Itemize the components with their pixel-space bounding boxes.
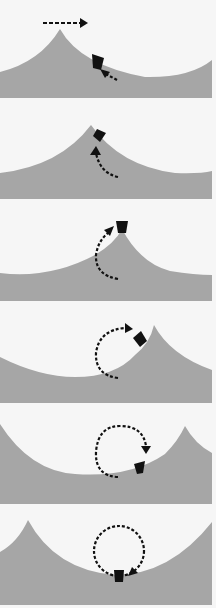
arrowhead-icon [141, 446, 151, 454]
wave-surface [0, 29, 212, 98]
arrowhead-icon [80, 18, 88, 28]
wave-surface [0, 229, 212, 301]
frame-2 [0, 101, 216, 202]
arrowhead-icon [104, 226, 114, 236]
wave-surface [0, 520, 212, 605]
frame-4 [0, 305, 216, 406]
wave-surface [0, 325, 212, 403]
dashed-arrow-circle [94, 526, 144, 576]
frame-3 [0, 203, 216, 304]
arrowhead-icon [125, 323, 133, 333]
frame-5 [0, 406, 216, 507]
wave-surface [0, 125, 212, 199]
frame-1 [0, 0, 216, 101]
block-object [133, 331, 147, 347]
block-object [116, 221, 128, 233]
wave-surface [0, 424, 212, 504]
frame-6 [0, 507, 216, 608]
